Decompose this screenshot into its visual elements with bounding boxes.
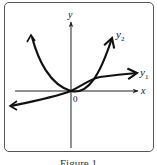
curve-y2 — [32, 37, 112, 92]
y-axis-label: y — [67, 9, 73, 20]
curve-y2-label: y2 — [115, 28, 125, 43]
svg-text:y1: y1 — [139, 66, 149, 81]
x-axis-label: x — [140, 85, 146, 96]
origin-label: 0 — [73, 94, 78, 104]
curve-y1-label: y1 — [139, 66, 149, 81]
svg-text:y2: y2 — [115, 28, 125, 43]
graph: y x 0 y1 y2 — [0, 0, 157, 165]
figure-caption: Figure 1 — [0, 158, 157, 165]
